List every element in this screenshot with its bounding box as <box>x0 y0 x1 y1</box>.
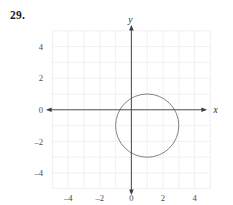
x-axis-label: x <box>213 105 219 115</box>
y-tick-label-4: 4 <box>39 42 44 52</box>
x-axis <box>46 108 207 113</box>
y-axis-label: y <box>127 15 133 25</box>
y-tick-label-neg4: –4 <box>33 168 43 178</box>
coordinate-plane: y x 4 2 0 –2 –4 –4 –2 0 2 4 <box>0 0 233 205</box>
x-tick-label-neg4: –4 <box>63 193 73 203</box>
x-tick-label-neg2: –2 <box>95 193 105 203</box>
x-tick-label-4: 4 <box>192 193 197 203</box>
y-tick-label-2: 2 <box>39 73 43 83</box>
coordinate-plane-svg: y x 4 2 0 –2 –4 –4 –2 0 2 4 <box>0 0 233 205</box>
x-tick-label-2: 2 <box>161 193 165 203</box>
exercise-figure: 29. <box>0 0 233 205</box>
y-tick-label-neg2: –2 <box>33 137 43 147</box>
x-tick-label-0: 0 <box>129 193 133 203</box>
y-tick-label-0: 0 <box>39 105 43 115</box>
